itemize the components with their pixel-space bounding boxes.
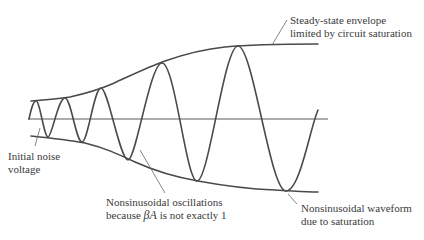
label-nonsinusoidal-oscillations-line1: Nonsinusoidal oscillations bbox=[106, 196, 227, 209]
leader-nonsinusoidal-waveform bbox=[288, 194, 297, 204]
beta-a-symbol: βA bbox=[144, 208, 157, 222]
lower-envelope bbox=[31, 136, 318, 192]
label-because: because bbox=[106, 209, 144, 221]
label-steady-state-line2: limited by circuit saturation bbox=[290, 27, 412, 40]
label-nonsinusoidal-oscillations-line2: because βA is not exactly 1 bbox=[106, 209, 227, 222]
label-nonsinusoidal-waveform-line1: Nonsinusoidal waveform bbox=[301, 202, 412, 215]
label-steady-state-line1: Steady-state envelope bbox=[290, 14, 412, 27]
label-initial-noise-line2: voltage bbox=[8, 163, 60, 176]
label-steady-state-envelope: Steady-state envelope limited by circuit… bbox=[290, 14, 412, 39]
label-nonsinusoidal-waveform: Nonsinusoidal waveform due to saturation bbox=[301, 202, 412, 227]
label-initial-noise-line1: Initial noise bbox=[8, 150, 60, 163]
label-initial-noise-voltage: Initial noise voltage bbox=[8, 150, 60, 175]
label-nonsinusoidal-waveform-line2: due to saturation bbox=[301, 215, 412, 228]
leader-steady-state bbox=[272, 20, 287, 45]
label-not-exactly-one: is not exactly 1 bbox=[157, 209, 227, 221]
label-nonsinusoidal-oscillations: Nonsinusoidal oscillations because βA is… bbox=[106, 196, 227, 221]
